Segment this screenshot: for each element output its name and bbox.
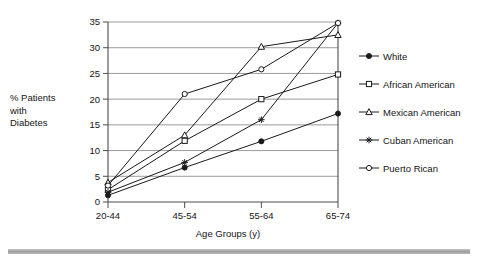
y-tick-label: 0 xyxy=(95,196,100,207)
legend-item-cuban-american[interactable]: Cuban American xyxy=(358,126,476,154)
marker-filled-circle xyxy=(182,165,187,170)
legend-marker-open-circle-icon xyxy=(358,162,380,174)
y-tick-label: 30 xyxy=(89,42,100,53)
marker-open-square xyxy=(335,72,340,77)
marker-open-circle xyxy=(366,165,371,170)
y-tick-label: 15 xyxy=(89,119,100,130)
marker-open-square xyxy=(366,81,371,86)
legend-marker-asterisk-icon xyxy=(358,134,380,146)
y-tick-label: 35 xyxy=(89,16,100,27)
legend-label: Puerto Rican xyxy=(380,163,438,174)
legend-label: White xyxy=(380,51,407,62)
y-tick-label: 5 xyxy=(95,171,100,182)
legend-marker-open-triangle-icon xyxy=(358,106,380,118)
marker-filled-circle xyxy=(335,111,340,116)
series-line xyxy=(108,74,338,189)
x-axis-title: Age Groups (y) xyxy=(148,228,308,239)
x-tick-label: 45-54 xyxy=(173,210,197,221)
series-african-american xyxy=(105,72,340,192)
legend-item-white[interactable]: White xyxy=(358,42,476,70)
y-tick-label: 10 xyxy=(89,145,100,156)
legend-marker-filled-circle-icon xyxy=(358,50,380,62)
series-mexican-american xyxy=(105,32,341,186)
legend-marker-open-square-icon xyxy=(358,78,380,90)
y-tick-label: 20 xyxy=(89,94,100,105)
series-line xyxy=(108,23,338,192)
chart-figure: % Patients with Diabetes 051015202530352… xyxy=(0,0,478,263)
marker-open-circle xyxy=(105,183,110,188)
marker-open-circle xyxy=(259,67,264,72)
y-tick-label: 25 xyxy=(89,68,100,79)
x-tick-label: 65-74 xyxy=(326,210,350,221)
chart-legend: WhiteAfrican AmericanMexican AmericanCub… xyxy=(358,42,476,182)
legend-label: Mexican American xyxy=(380,107,461,118)
marker-open-triangle xyxy=(335,32,341,38)
marker-open-square xyxy=(182,138,187,143)
series-white xyxy=(105,111,340,198)
series-line xyxy=(108,114,338,196)
x-tick-label: 55-64 xyxy=(249,210,273,221)
legend-item-mexican-american[interactable]: Mexican American xyxy=(358,98,476,126)
marker-filled-circle xyxy=(259,139,264,144)
marker-open-circle xyxy=(335,20,340,25)
series-line xyxy=(108,35,338,183)
legend-label: Cuban American xyxy=(380,135,453,146)
marker-open-square xyxy=(259,97,264,102)
legend-item-african-american[interactable]: African American xyxy=(358,70,476,98)
series-puerto-rican xyxy=(105,20,340,188)
marker-filled-circle xyxy=(366,53,371,58)
footer-divider xyxy=(8,249,470,254)
x-tick-label: 20-44 xyxy=(96,210,120,221)
legend-item-puerto-rican[interactable]: Puerto Rican xyxy=(358,154,476,182)
marker-open-circle xyxy=(182,91,187,96)
legend-label: African American xyxy=(380,79,455,90)
